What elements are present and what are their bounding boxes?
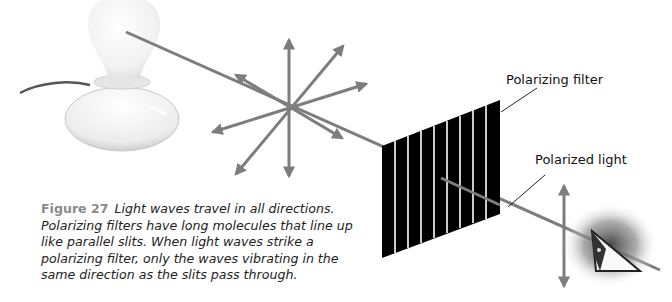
leader-line-filter [501,88,537,112]
polarized-light-label: Polarized light [535,152,627,167]
unpolarized-waves-icon [213,40,366,176]
lamp-icon [20,0,179,151]
polarizing-filter [382,100,500,258]
eye-icon [562,203,658,287]
figure-number: Figure 27 [41,201,109,216]
leader-line-polarized [508,175,545,207]
polarizing-filter-label: Polarizing filter [506,72,603,87]
figure-caption: Figure 27Light waves travel in all direc… [41,201,361,284]
